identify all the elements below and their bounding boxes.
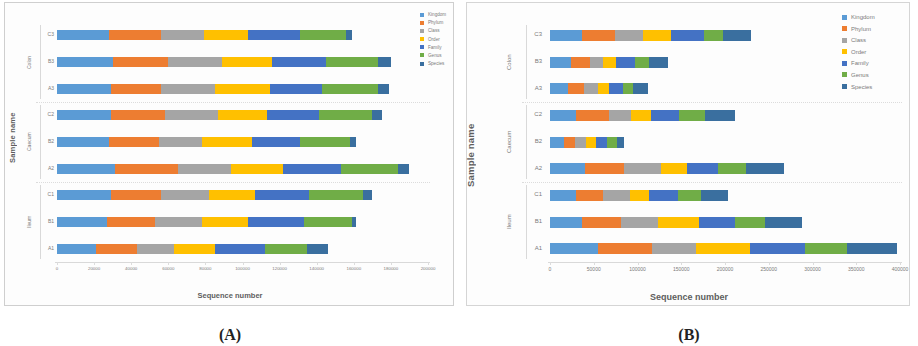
x-tick-mark — [856, 262, 857, 265]
bar-segment-phylum — [96, 244, 137, 254]
bar-segment-family — [616, 57, 635, 68]
legend-swatch-class-icon — [842, 38, 847, 43]
bar-b1 — [57, 217, 356, 227]
bar-segment-order — [222, 57, 272, 67]
bar-segment-family — [252, 137, 300, 147]
bar-segment-class — [603, 190, 629, 201]
x-tick-mark — [391, 262, 392, 265]
legend-swatch-species-icon — [420, 62, 424, 66]
x-tick-mark — [354, 262, 355, 265]
bar-segment-kingdom — [550, 137, 564, 148]
legend-label: Species — [428, 61, 444, 66]
panel-a-caption: (A) — [0, 326, 460, 344]
bar-segment-class — [575, 137, 586, 148]
bar-segment-genus — [704, 30, 723, 41]
bar-segment-class — [178, 164, 232, 174]
bar-segment-genus — [635, 57, 649, 68]
legend-item-family: Family — [420, 45, 446, 50]
bar-segment-order — [603, 57, 615, 68]
bar-segment-genus — [326, 57, 378, 67]
bar-segment-kingdom — [57, 84, 111, 94]
bar-segment-order — [231, 164, 283, 174]
x-tick-label: 180000 — [384, 266, 399, 271]
legend-swatch-phylum-icon — [842, 26, 847, 31]
bar-segment-species — [847, 243, 898, 254]
legend-label: Family — [851, 60, 869, 66]
bar-segment-genus — [341, 164, 399, 174]
y-tick-label-a1: A1 — [36, 245, 54, 251]
x-tick-mark — [900, 262, 901, 265]
y-tick-label-c3: C3 — [36, 31, 54, 37]
bar-segment-species — [398, 164, 409, 174]
group-label-caecum: Caecum — [506, 102, 512, 182]
y-tick-label-b1: B1 — [36, 218, 54, 224]
legend-label: Order — [851, 49, 866, 55]
x-tick-mark — [594, 262, 595, 265]
bar-segment-genus — [805, 243, 847, 254]
legend-item-phylum: Phylum — [420, 20, 446, 25]
group-bracket-caecum — [40, 105, 41, 179]
y-tick-label-a3: A3 — [36, 85, 54, 91]
group-label-ileum: Ileum — [26, 182, 32, 262]
legend-swatch-family-icon — [420, 45, 424, 49]
bar-segment-species — [701, 190, 727, 201]
bar-segment-species — [350, 137, 356, 147]
y-tick-label-c1: C1 — [36, 191, 54, 197]
legend-label: Order — [428, 37, 440, 42]
bar-segment-phylum — [576, 190, 603, 201]
x-tick-label: 400000 — [892, 266, 909, 272]
bar-segment-phylum — [582, 30, 614, 41]
legend-label: Genus — [851, 72, 869, 78]
bar-segment-genus — [304, 217, 352, 227]
bar-segment-genus — [679, 110, 705, 121]
bar-segment-order — [643, 30, 671, 41]
bar-segment-species — [746, 163, 784, 174]
bar-segment-species — [617, 137, 625, 148]
bar-segment-phylum — [576, 110, 608, 121]
group-bracket-ileum — [526, 185, 527, 259]
bar-segment-phylum — [115, 164, 178, 174]
x-tick-mark — [813, 262, 814, 265]
bar-segment-order — [586, 137, 596, 148]
bar-segment-kingdom — [550, 110, 576, 121]
bar-b2 — [550, 137, 624, 148]
legend-item-genus: Genus — [420, 53, 446, 58]
bar-c2 — [550, 110, 736, 121]
y-tick-label-c2: C2 — [522, 111, 542, 117]
bar-segment-order — [696, 243, 750, 254]
bar-segment-family — [671, 30, 704, 41]
bar-a3 — [57, 84, 389, 94]
bar-segment-kingdom — [550, 163, 585, 174]
bar-segment-family — [248, 217, 304, 227]
bar-c1 — [57, 190, 372, 200]
bar-segment-order — [630, 190, 649, 201]
bar-segment-class — [155, 217, 201, 227]
bar-segment-kingdom — [57, 57, 113, 67]
group-label-caecum: Caecum — [26, 102, 32, 182]
bar-c3 — [57, 30, 352, 40]
x-tick-label: 50000 — [587, 266, 601, 272]
group-bracket-colon — [40, 25, 41, 99]
x-tick-label: 350000 — [848, 266, 865, 272]
bar-segment-order — [215, 84, 271, 94]
bar-segment-genus — [735, 217, 766, 228]
x-tick-label: 160000 — [346, 266, 361, 271]
group-separator — [36, 182, 430, 183]
bar-segment-family — [267, 110, 319, 120]
bar-segment-class — [137, 244, 174, 254]
bar-segment-family — [255, 190, 309, 200]
bar-segment-class — [621, 217, 658, 228]
figure-stacked-bar-charts: Sample name C3B3A3C2B2A2C1B1A1ColonCaecu… — [0, 0, 918, 346]
x-tick-label: 140000 — [309, 266, 324, 271]
bar-segment-species — [307, 244, 327, 254]
group-separator — [522, 182, 902, 183]
bar-segment-family — [699, 217, 735, 228]
bar-segment-family — [649, 190, 678, 201]
bar-b3 — [57, 57, 391, 67]
x-tick-mark — [638, 262, 639, 265]
bar-b3 — [550, 57, 668, 68]
bar-segment-class — [615, 30, 643, 41]
bar-segment-kingdom — [550, 30, 582, 41]
x-tick-label: 100000 — [235, 266, 250, 271]
bar-c3 — [550, 30, 751, 41]
